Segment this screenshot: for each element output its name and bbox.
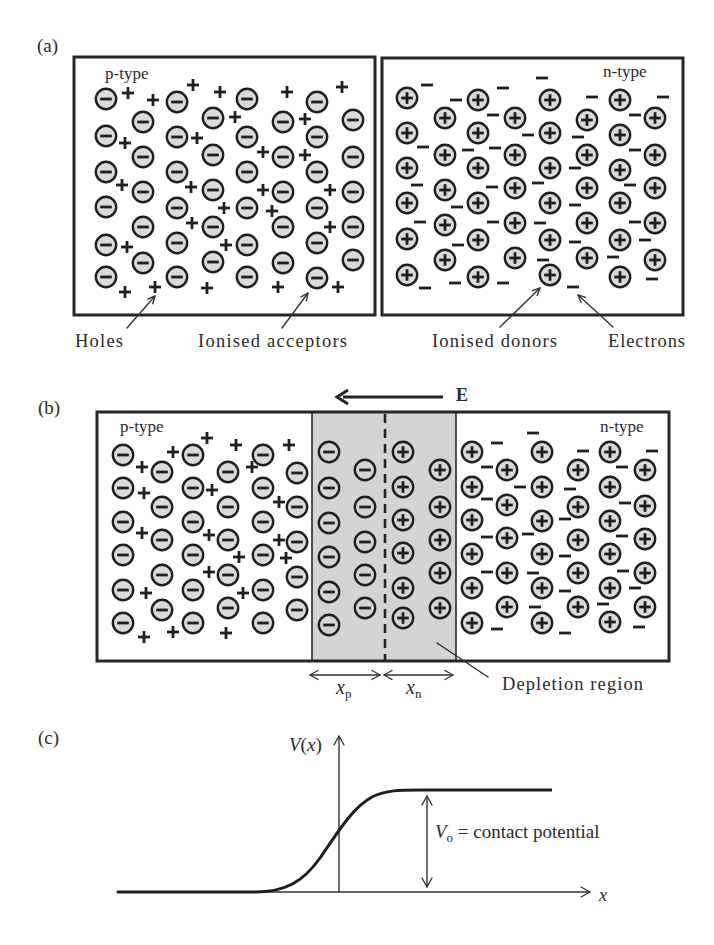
hole-icon — [299, 113, 311, 125]
ionised-donor-icon — [532, 578, 552, 598]
ionised-acceptor-icon — [96, 197, 116, 217]
ionised-donor-icon — [577, 178, 597, 198]
hole-icon — [257, 146, 269, 158]
ionised-acceptor-icon — [152, 462, 172, 482]
ionised-donor-icon — [645, 213, 665, 233]
ionised-donor-icon — [635, 496, 655, 516]
hole-icon — [281, 86, 293, 98]
ionised-acceptor-icon — [307, 268, 327, 288]
panel-c-label: (c) — [38, 727, 59, 749]
n-type-label: n-type — [603, 62, 646, 81]
ionised-acceptor-icon — [167, 92, 187, 112]
hole-icon — [186, 217, 198, 229]
ionised-donor-icon — [462, 613, 482, 633]
ionised-donor-icon — [540, 230, 560, 250]
ionised-acceptor-icon — [273, 182, 293, 202]
ionised-acceptor-icon — [183, 445, 203, 465]
b-n-type-label: n-type — [600, 417, 643, 436]
ionised-acceptor-icon — [167, 127, 187, 147]
ionised-donor-icon — [540, 265, 560, 285]
ionised-donor-icon — [635, 563, 655, 583]
depletion-donor-icon — [430, 460, 450, 480]
hole-icon — [138, 631, 150, 643]
ionised-donor-icon — [532, 544, 552, 564]
hole-icon — [324, 221, 336, 233]
ionised-acceptor-icon — [253, 512, 273, 532]
electrons-annotation: Electrons — [608, 331, 685, 351]
ionised-donor-icon — [397, 229, 417, 249]
hole-icon — [136, 527, 148, 539]
hole-icon — [283, 439, 295, 451]
ionised-donor-icon — [568, 563, 588, 583]
hole-icon — [273, 534, 285, 546]
hole-icon — [119, 286, 131, 298]
ionised-acceptor-icon — [113, 545, 133, 565]
ionised-donor-icon — [610, 193, 630, 213]
depletion-donor-icon — [430, 563, 450, 583]
ionised-acceptor-icon — [218, 497, 238, 517]
ionised-donor-icon — [532, 511, 552, 531]
ionised-donor-icon — [497, 460, 517, 480]
ionised-donor-icon — [497, 495, 517, 515]
ionised-donor-icon — [532, 613, 552, 633]
ionised-acceptor-icon — [287, 463, 307, 483]
ionised-donor-icon — [468, 267, 488, 287]
ionised-acceptor-icon — [343, 250, 363, 270]
ionised-acceptor-icon — [167, 233, 187, 253]
ionised-donors-group — [397, 88, 665, 287]
ionised-acceptors-group — [96, 89, 363, 288]
ionised-donor-icon — [610, 125, 630, 145]
ionised-donor-icon — [635, 529, 655, 549]
ionised-acceptor-icon — [133, 217, 153, 237]
ionised-donor-icon — [497, 563, 517, 583]
ionised-donor-icon — [468, 193, 488, 213]
ionised-acceptor-icon — [237, 89, 257, 109]
ionised-donor-icon — [568, 530, 588, 550]
ionised-acceptor-icon — [152, 530, 172, 550]
hole-icon — [136, 461, 148, 473]
hole-icon — [230, 439, 242, 451]
xp-subscript: p — [345, 686, 352, 701]
depletion-acceptor-icon — [355, 497, 375, 517]
hole-icon — [116, 179, 128, 191]
ionised-acceptor-icon — [203, 217, 223, 237]
y-axis — [334, 736, 344, 892]
ionised-donor-icon — [600, 544, 620, 564]
ionised-acceptor-icon — [273, 112, 293, 132]
ionised-donor-icon — [532, 442, 552, 462]
ionised-acceptor-icon — [343, 182, 363, 202]
ionised-donor-icon — [435, 108, 455, 128]
hole-icon — [191, 132, 203, 144]
ionised-donor-icon — [468, 230, 488, 250]
ionised-acceptor-icon — [307, 92, 327, 112]
ionised-acceptor-icon — [113, 445, 133, 465]
ionised-acceptor-icon — [96, 126, 116, 146]
electric-field-label: E — [456, 385, 468, 405]
hole-icon — [167, 626, 179, 638]
ionised-acceptor-icon — [183, 478, 203, 498]
ionised-donor-icon — [497, 597, 517, 617]
ionised-acceptor-icon — [287, 600, 307, 620]
ionised-donor-icon — [577, 213, 597, 233]
hole-icon — [185, 181, 197, 193]
ionised-acceptor-icon — [133, 182, 153, 202]
ionised-donor-icon — [635, 597, 655, 617]
depletion-acceptor-icon — [355, 460, 375, 480]
depletion-donor-icon — [393, 578, 413, 598]
xn-label: xn — [405, 676, 422, 701]
hole-icon — [167, 446, 179, 458]
ionised-acceptor-icon — [183, 613, 203, 633]
ionised-acceptor-icon — [167, 267, 187, 287]
ionised-acceptor-icon — [343, 217, 363, 237]
ionised-donor-icon — [532, 477, 552, 497]
ionised-donors-annotation: Ionised donors — [432, 331, 557, 351]
ionised-acceptor-icon — [167, 162, 187, 182]
ionised-donor-icon — [600, 477, 620, 497]
ionised-acceptor-icon — [133, 253, 153, 273]
ionised-donor-icon — [600, 511, 620, 531]
b-p-type-label: p-type — [120, 417, 163, 436]
ionised-acceptor-icon — [203, 108, 223, 128]
depletion-acceptor-icon — [319, 513, 339, 533]
hole-icon — [299, 149, 311, 161]
depletion-donor-icon — [393, 477, 413, 497]
